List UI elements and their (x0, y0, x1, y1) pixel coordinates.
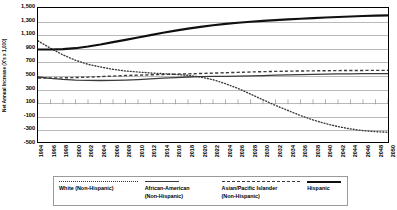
legend-item[interactable]: Hispanic (307, 180, 343, 193)
x-tick-label: 2014 (165, 145, 171, 157)
y-tick-label: 700 (26, 59, 35, 65)
x-tick-label: 2004 (102, 145, 108, 157)
y-tick-label: 1,100 (21, 31, 35, 37)
y-tick-label: -100 (24, 113, 35, 119)
y-axis-tick-labels: 1,5001,3001,100900700500300100-100-300-5… (12, 5, 36, 145)
legend-label: African-American (Non-Hispanic) (145, 185, 215, 201)
legend-label: Asian/Pacific Islander (Non-Hispanic) (222, 185, 301, 201)
legend-label: White (Non-Hispanic) (59, 185, 138, 193)
series-line (38, 15, 388, 49)
plot-area (37, 7, 389, 143)
y-axis-title-text: Net Annual Increase (X's x 1,000) (4, 38, 9, 111)
x-tick-label: 2018 (190, 145, 196, 157)
y-tick-label: -500 (24, 140, 35, 146)
x-tick-label: 2042 (341, 145, 347, 157)
legend-line-swatch (59, 180, 138, 184)
x-tick-label: 2000 (77, 145, 83, 157)
y-tick-label: 900 (26, 45, 35, 51)
x-tick-label: 2050 (391, 145, 397, 157)
legend-line-swatch (145, 180, 215, 184)
x-tick-label: 2020 (203, 145, 209, 157)
y-tick-label: 100 (26, 99, 35, 105)
x-tick-label: 2032 (278, 145, 284, 157)
chart-legend: White (Non-Hispanic)African-American (No… (53, 176, 348, 206)
x-tick-label: 2026 (240, 145, 246, 157)
series-lines (38, 8, 388, 142)
x-tick-label: 2002 (89, 145, 95, 157)
x-tick-label: 2012 (152, 145, 158, 157)
y-tick-label: 300 (26, 86, 35, 92)
legend-item[interactable]: African-American (Non-Hispanic) (145, 180, 215, 201)
x-tick-label: 2046 (366, 145, 372, 157)
x-tick-label: 2040 (328, 145, 334, 157)
axis-tick-marks (38, 99, 388, 104)
legend-label: Hispanic (307, 185, 343, 193)
legend-line-swatch (307, 180, 343, 184)
chart-figure: Net Annual Increase (X's x 1,000) 1,5001… (0, 0, 397, 210)
y-tick-label: 1,300 (21, 18, 35, 24)
x-tick-label: 1994 (39, 145, 45, 157)
x-tick-label: 2028 (253, 145, 259, 157)
legend-item[interactable]: Asian/Pacific Islander (Non-Hispanic) (222, 180, 301, 201)
y-tick-label: 1,500 (21, 4, 35, 10)
x-tick-label: 2010 (140, 145, 146, 157)
legend-line-swatch (222, 180, 301, 184)
x-axis-tick-labels: 1994199619982000200220042006200820102012… (37, 145, 389, 175)
legend-item[interactable]: White (Non-Hispanic) (59, 180, 138, 193)
x-tick-label: 2006 (115, 145, 121, 157)
x-tick-label: 1998 (64, 145, 70, 157)
x-tick-label: 2016 (177, 145, 183, 157)
x-tick-label: 1996 (52, 145, 58, 157)
x-tick-label: 2044 (353, 145, 359, 157)
x-tick-label: 2024 (228, 145, 234, 157)
y-tick-label: 500 (26, 72, 35, 78)
y-tick-label: -300 (24, 127, 35, 133)
x-tick-label: 2038 (316, 145, 322, 157)
x-tick-label: 2030 (265, 145, 271, 157)
x-tick-label: 2022 (215, 145, 221, 157)
x-tick-label: 2048 (379, 145, 385, 157)
x-tick-label: 2036 (303, 145, 309, 157)
x-tick-label: 2034 (291, 145, 297, 157)
series-line (38, 41, 388, 132)
y-axis-title: Net Annual Increase (X's x 1,000) (0, 0, 12, 150)
x-tick-label: 2008 (127, 145, 133, 157)
